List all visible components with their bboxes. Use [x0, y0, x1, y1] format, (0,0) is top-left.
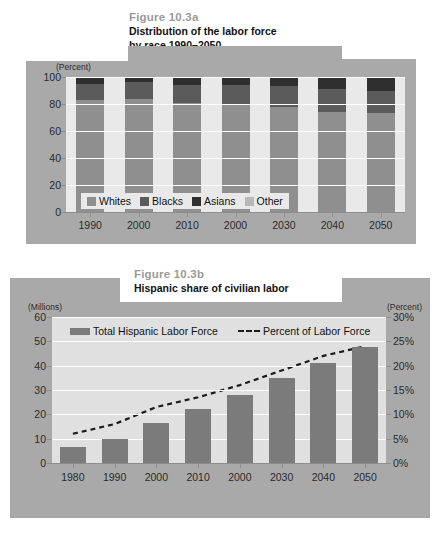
y-axis-tick — [61, 185, 66, 186]
gridline — [66, 158, 405, 159]
legend-item-total-hispanic-labor-force: Total Hispanic Labor Force — [70, 325, 218, 337]
x-axis-tick-label: 2010 — [186, 471, 209, 483]
bar-segment-asians — [367, 78, 395, 90]
bar-segment-blacks — [125, 82, 153, 98]
y-axis-right-tick-label: 30% — [393, 311, 414, 323]
x-axis-tick-label: 2000 — [224, 219, 247, 231]
y-axis-left-tick-label: 0 — [40, 457, 46, 469]
bar-segment-asians — [270, 78, 298, 86]
x-axis-tick — [323, 463, 324, 468]
y-axis-left-tick — [47, 341, 52, 342]
legend-item-percent-of-labor-force: Percent of Labor Force — [238, 325, 370, 337]
x-axis-tick — [139, 212, 140, 217]
bar-segment-asians — [222, 78, 250, 85]
x-axis-tick-label: 1990 — [79, 219, 102, 231]
x-axis-tick — [187, 212, 188, 217]
x-axis-tick — [156, 463, 157, 468]
figure-b-legend: Total Hispanic Labor Force Percent of La… — [70, 325, 370, 337]
bar — [143, 423, 169, 463]
stacked-bar — [270, 77, 298, 212]
y-axis-left-tick-label: 50 — [34, 335, 46, 347]
legend-swatch-whites — [87, 197, 96, 206]
figure-a-title-block: Figure 10.3a Distribution of the labor f… — [129, 10, 379, 51]
bar — [227, 395, 253, 463]
y-axis-left-tick-label: 40 — [34, 360, 46, 372]
bar-segment-whites — [367, 113, 395, 212]
y-axis-right-tick-label: 15% — [393, 384, 414, 396]
figure-b-subtitle-line1: Hispanic share of civilian labor — [134, 282, 334, 295]
bar — [352, 347, 378, 463]
y-axis-left-tick — [47, 366, 52, 367]
bar — [310, 363, 336, 463]
gridline — [52, 341, 386, 342]
figure-a-subtitle-line1: Distribution of the labor force — [129, 25, 379, 38]
y-axis-tick — [61, 158, 66, 159]
x-axis-tick — [198, 463, 199, 468]
y-axis-tick-label: 20 — [49, 179, 61, 191]
figure-b-number: Figure 10.3b — [134, 267, 334, 281]
legend-label-total-hispanic-labor-force: Total Hispanic Labor Force — [93, 325, 218, 337]
legend-label-blacks: Blacks — [152, 195, 183, 207]
x-axis-tick — [381, 212, 382, 217]
legend-label-whites: Whites — [99, 195, 131, 207]
figure-a-legend: Whites Blacks Asians Other — [81, 193, 289, 209]
gridline — [66, 131, 405, 132]
gridline — [66, 104, 405, 105]
y-axis-tick — [61, 77, 66, 78]
x-axis-tick — [115, 463, 116, 468]
x-axis-tick-label: 2000 — [145, 471, 168, 483]
x-axis-tick-label: 2030 — [272, 219, 295, 231]
figure-a-number: Figure 10.3a — [129, 10, 379, 24]
gridline — [66, 77, 405, 78]
x-axis-tick-label: 2050 — [369, 219, 392, 231]
figure-a-bars — [66, 77, 405, 212]
y-axis-left-tick-label: 30 — [34, 384, 46, 396]
legend-swatch-blacks — [140, 197, 149, 206]
x-axis-tick — [365, 463, 366, 468]
figure-b-x-axis: 19801990200020102000203020402050 — [52, 463, 386, 464]
bar-segment-blacks — [367, 91, 395, 114]
legend-swatch-other — [245, 197, 254, 206]
y-axis-right-tick-label: 0% — [393, 457, 408, 469]
legend-label-percent-of-labor-force: Percent of Labor Force — [263, 325, 370, 337]
figure-a-x-axis: 1990200020102000203020402050 — [66, 212, 405, 213]
x-axis-tick-label: 2000 — [127, 219, 150, 231]
x-axis-tick-label: 2050 — [353, 471, 376, 483]
x-axis-tick-label: 2000 — [228, 471, 251, 483]
y-axis-right-tick-label: 5% — [393, 433, 408, 445]
y-axis-right-tick — [386, 390, 391, 391]
legend-label-asians: Asians — [204, 195, 236, 207]
stacked-bar — [222, 77, 250, 212]
x-axis-tick-label: 2040 — [321, 219, 344, 231]
bar-segment-whites — [318, 112, 346, 212]
legend-item-asians: Asians — [192, 195, 236, 207]
bar — [60, 447, 86, 463]
x-axis-tick-label: 2040 — [312, 471, 335, 483]
y-axis-tick-label: 80 — [49, 98, 61, 110]
legend-label-other: Other — [257, 195, 283, 207]
y-axis-left-tick — [47, 414, 52, 415]
x-axis-tick-label: 1980 — [61, 471, 84, 483]
bar — [185, 409, 211, 463]
stacked-bar — [318, 77, 346, 212]
x-axis-tick — [73, 463, 74, 468]
y-axis-right-tick — [386, 317, 391, 318]
panel-a-notch-left — [26, 46, 128, 61]
legend-item-whites: Whites — [87, 195, 131, 207]
gridline — [66, 185, 405, 186]
x-axis-tick — [90, 212, 91, 217]
y-axis-left-tick-label: 10 — [34, 433, 46, 445]
y-axis-left-tick — [47, 317, 52, 318]
stacked-bar — [173, 77, 201, 212]
legend-swatch-asians — [192, 197, 201, 206]
y-axis-right-tick-label: 20% — [393, 360, 414, 372]
y-axis-right-tick — [386, 463, 391, 464]
y-axis-left-tick — [47, 439, 52, 440]
figure-b-title-block: Figure 10.3b Hispanic share of civilian … — [120, 262, 342, 302]
y-axis-tick-label: 60 — [49, 125, 61, 137]
bar-segment-asians — [173, 78, 201, 85]
y-axis-right-tick-label: 10% — [393, 408, 414, 420]
stacked-bar — [125, 77, 153, 212]
figure-b-plot-area: Total Hispanic Labor Force Percent of La… — [52, 317, 386, 463]
y-axis-right-tick — [386, 341, 391, 342]
